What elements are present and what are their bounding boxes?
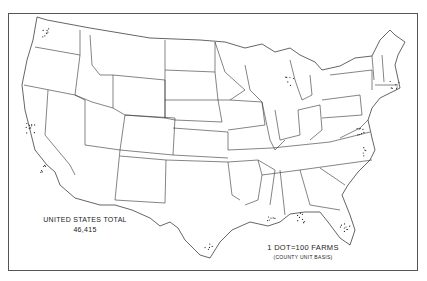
legend-subtitle: (COUNTY UNIT BASIS) — [248, 254, 358, 260]
state-boundaries — [24, 30, 398, 215]
us-state-outline-map — [0, 0, 427, 281]
us-total-value: 46,415 — [40, 226, 130, 233]
us-total-label: UNITED STATES TOTAL — [40, 216, 130, 223]
legend-title: 1 DOT=100 FARMS — [248, 243, 358, 252]
